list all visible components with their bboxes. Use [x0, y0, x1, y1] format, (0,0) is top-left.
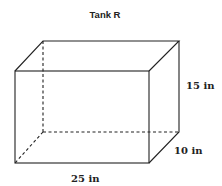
length-label: 25 in — [71, 173, 100, 184]
top-face — [15, 41, 179, 71]
depth-label: 10 in — [174, 145, 203, 156]
hidden-edges — [15, 41, 179, 163]
front-face — [15, 71, 149, 163]
tank-prism-diagram: 15 in 10 in 25 in — [0, 0, 222, 186]
height-label: 15 in — [186, 80, 215, 91]
